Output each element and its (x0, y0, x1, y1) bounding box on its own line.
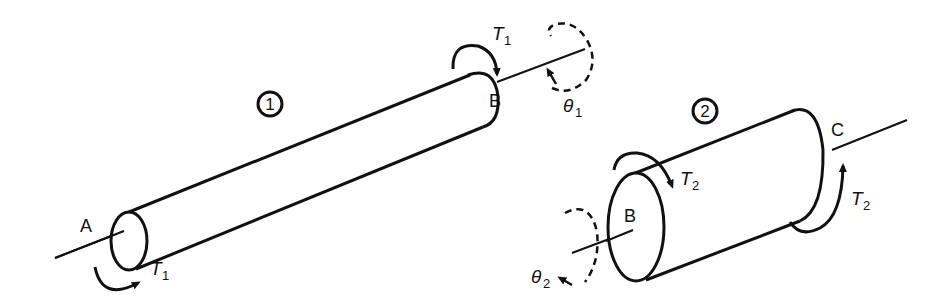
shaft-1 (55, 23, 593, 289)
label-b-shaft1: B (489, 91, 501, 111)
label-t2-b: T 2 (680, 168, 699, 193)
label-t1-b: T 1 (492, 23, 511, 48)
torque-arrow-t1-b (453, 45, 497, 74)
svg-text:1: 1 (162, 268, 169, 283)
shaft-2-id: 2 (700, 102, 709, 121)
svg-text:2: 2 (543, 276, 550, 291)
torsion-diagram: 1 A B T 1 T 1 θ 1 2 B C (0, 0, 949, 305)
label-c: C (831, 120, 844, 140)
svg-text:θ: θ (563, 95, 574, 116)
label-t1-a: T 1 (150, 258, 169, 283)
label-t2-c: T 2 (851, 188, 870, 213)
svg-text:2: 2 (863, 198, 870, 213)
shaft-2-end-b (608, 173, 664, 281)
label-theta2: θ 2 (531, 266, 550, 291)
shaft-1-axis-b (497, 49, 585, 82)
label-theta1: θ 1 (563, 95, 582, 120)
shaft-1-id: 1 (265, 95, 274, 114)
label-b-shaft2: B (624, 206, 636, 226)
svg-text:1: 1 (504, 33, 511, 48)
svg-text:2: 2 (692, 178, 699, 193)
label-a: A (80, 216, 92, 236)
shaft-1-id-badge: 1 (258, 92, 282, 116)
shaft-2-id-badge: 2 (693, 99, 717, 123)
shaft-1-end-a (111, 212, 147, 270)
svg-text:1: 1 (575, 105, 582, 120)
svg-text:θ: θ (531, 266, 542, 287)
